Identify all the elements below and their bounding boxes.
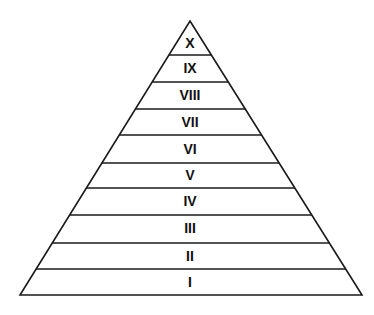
tier-label-5: V [185,168,195,183]
tier-label-3: III [184,220,196,236]
tier-label-4: IV [183,193,197,209]
tier-label-6: VI [183,141,196,157]
pyramid-svg-canvas: X IX VIII VII VI V IV III II I [0,0,374,315]
tier-label-9: IX [183,60,197,76]
tier-label-2: II [186,248,194,264]
tier-label-7: VII [181,114,198,130]
pyramid-diagram: X IX VIII VII VI V IV III II I [0,0,374,315]
tier-label-1: I [188,274,192,290]
tier-label-8: VIII [179,87,200,103]
tier-label-10: X [185,35,195,51]
